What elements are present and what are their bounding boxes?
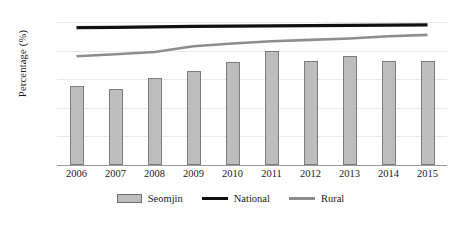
x-axis-tick-labels: 2006200720082009201020112012201320142015: [57, 168, 447, 186]
gridline-0: [57, 165, 447, 166]
legend-label: Seomjin: [148, 193, 183, 204]
legend-item-rural[interactable]: Rural: [289, 193, 344, 204]
x-tick-label-2009: 2009: [183, 168, 204, 179]
plot-area: [57, 22, 447, 165]
x-tick-label-2012: 2012: [300, 168, 321, 179]
x-tick-label-2010: 2010: [222, 168, 243, 179]
x-tick-label-2014: 2014: [378, 168, 399, 179]
line-rural: [77, 35, 428, 56]
legend-swatch-line-black-icon: [202, 197, 228, 200]
legend-label: Rural: [321, 193, 344, 204]
x-tick-label-2006: 2006: [66, 168, 87, 179]
legend-swatch-line-gray-icon: [289, 197, 315, 200]
line-national: [77, 25, 428, 28]
x-tick-label-2015: 2015: [417, 168, 438, 179]
chart-legend: SeomjinNationalRural: [0, 193, 461, 204]
legend-label: National: [234, 193, 270, 204]
legend-item-national[interactable]: National: [202, 193, 270, 204]
line-series-layer: [57, 22, 447, 165]
chart-figure: Percentage (%) 020406080100 200620072008…: [0, 0, 461, 226]
x-tick-label-2011: 2011: [261, 168, 282, 179]
x-tick-label-2008: 2008: [144, 168, 165, 179]
y-axis-title: Percentage (%): [17, 4, 28, 124]
legend-item-seomjin[interactable]: Seomjin: [117, 193, 183, 204]
x-tick-label-2013: 2013: [339, 168, 360, 179]
legend-swatch-bar-icon: [117, 194, 142, 203]
x-tick-label-2007: 2007: [105, 168, 126, 179]
